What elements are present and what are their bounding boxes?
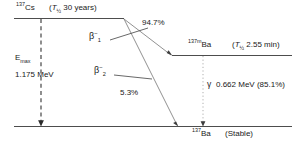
metastable-halflife-subscript: ½ (240, 45, 245, 51)
beta1-intensity-label: 94.7% (142, 19, 165, 27)
gamma-arrowhead (201, 121, 206, 126)
metastable-halflife-label: (T½ 2.55 min) (232, 41, 280, 49)
metastable-nuclide-label: 137mBa (188, 41, 211, 49)
ground-state-label: (Stable) (225, 130, 253, 138)
beta1-symbol-label: β−1 (89, 32, 101, 41)
emax-symbol-label: Emax (15, 54, 31, 62)
ground-symbol: Ba (201, 129, 211, 138)
beta2-transition-line (124, 19, 177, 125)
metastable-symbol: Ba (202, 40, 212, 49)
decay-scheme-diagram: 137Cs (T½ 30 years) Emax 1.175 MeV β−1 9… (0, 0, 307, 146)
emax-subscript: max (20, 58, 30, 64)
ground-mass-number: 137 (192, 127, 201, 133)
beta1-arrowhead (167, 50, 173, 55)
beta2-subscript: 2 (103, 71, 106, 77)
emax-arrowhead (38, 120, 44, 126)
parent-halflife-value: 30 years) (63, 3, 96, 12)
parent-mass-number: 137 (16, 1, 25, 7)
beta2-intensity-label: 5.3% (120, 89, 138, 97)
parent-nuclide-label: 137Cs (16, 4, 35, 12)
metastable-halflife-value: 2.55 min) (246, 40, 279, 49)
beta2-leader-line (114, 75, 152, 79)
parent-symbol: Cs (25, 3, 35, 12)
parent-halflife-label: (T½ 30 years) (49, 4, 97, 12)
parent-halflife-subscript: ½ (57, 8, 62, 14)
gamma-symbol-label: γ (207, 80, 211, 89)
beta1-subscript: 1 (98, 37, 101, 43)
gamma-energy-label: 0.662 MeV (85.1%) (216, 81, 285, 89)
emax-value-label: 1.175 MeV (15, 71, 54, 79)
beta2-superscript: − (99, 64, 103, 70)
beta1-superscript: − (94, 30, 98, 36)
metastable-mass-number: 137m (188, 38, 202, 44)
beta2-symbol-label: β−2 (94, 66, 106, 75)
beta2-arrowhead (173, 122, 178, 127)
ground-nuclide-label: 137Ba (192, 130, 211, 138)
